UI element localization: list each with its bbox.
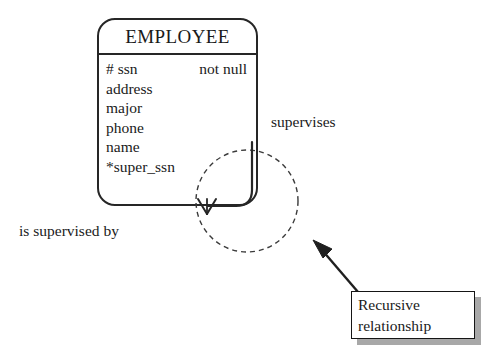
attribute-note: not null [199, 59, 247, 79]
attribute-row: name [99, 137, 256, 157]
entity-title: EMPLOYEE [99, 20, 256, 55]
relationship-label-supervises: supervises [271, 113, 336, 131]
attribute-name: *super_ssn [106, 157, 175, 177]
attribute-name: name [106, 137, 140, 157]
attribute-row: phone [99, 118, 256, 138]
attribute-list: # ssn not null address major phone name … [99, 55, 256, 176]
entity-employee[interactable]: EMPLOYEE # ssn not null address major ph… [97, 18, 258, 206]
attribute-row: address [99, 79, 256, 99]
attribute-row: # ssn not null [99, 59, 256, 79]
relationship-label-is-supervised-by: is supervised by [19, 222, 119, 240]
attribute-row: major [99, 98, 256, 118]
er-diagram-canvas: EMPLOYEE # ssn not null address major ph… [0, 0, 496, 358]
attribute-name: # ssn [106, 59, 137, 79]
attribute-row: *super_ssn [99, 157, 256, 177]
callout-line-2: relationship [358, 315, 474, 336]
callout-pointer-arrow [313, 240, 358, 292]
callout-box: Recursive relationship [351, 291, 475, 339]
callout-line-1: Recursive [358, 294, 474, 315]
attribute-name: phone [106, 118, 144, 138]
attribute-name: address [106, 79, 153, 99]
callout-note[interactable]: Recursive relationship [351, 291, 475, 339]
attribute-name: major [106, 98, 142, 118]
